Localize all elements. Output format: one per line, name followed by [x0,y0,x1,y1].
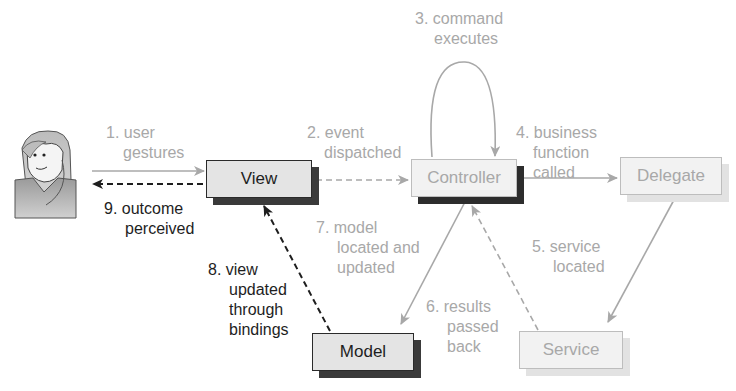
step-9-line: perceived [104,219,194,239]
step-4-line: function [516,143,597,163]
step-2-line: 2. event [307,123,401,143]
step-6-label: 6. results passed back [426,297,499,357]
step-5-line: 5. service [532,237,605,257]
step-7-line: updated [316,258,420,278]
step-4-line: called [516,163,597,183]
service-node[interactable]: Service [519,331,623,369]
arrow-delegate-to-service [608,198,675,322]
arrow-command-loop [431,62,495,157]
step-8-label: 8. view updated through bindings [208,260,289,340]
user-avatar-icon [15,131,76,218]
step-4-label: 4. business function called [516,123,597,183]
model-node-label: Model [340,342,386,362]
step-1-label: 1. user gestures [106,123,184,163]
step-7-line: 7. model [316,218,420,238]
step-8-line: bindings [208,320,289,340]
step-1-line: gestures [106,143,184,163]
step-2-line: dispatched [307,143,401,163]
step-3-line: 3. command [415,9,503,29]
step-9-line: 9. outcome [104,199,194,219]
step-6-line: back [426,337,499,357]
view-node[interactable]: View [206,160,312,198]
view-node-label: View [241,169,278,189]
step-6-line: passed [426,317,499,337]
controller-node-label: Controller [427,168,501,188]
step-4-line: 4. business [516,123,597,143]
controller-node[interactable]: Controller [411,159,517,197]
step-9-label: 9. outcome perceived [104,199,194,239]
step-5-label: 5. service located [532,237,605,277]
model-node[interactable]: Model [312,333,414,371]
step-2-label: 2. event dispatched [307,123,401,163]
step-8-line: 8. view [208,260,289,280]
step-7-line: located and [316,238,420,258]
service-node-label: Service [543,340,600,360]
step-7-label: 7. model located and updated [316,218,420,278]
step-5-line: located [532,257,605,277]
step-1-line: 1. user [106,123,184,143]
step-6-line: 6. results [426,297,499,317]
delegate-node-label: Delegate [637,166,705,186]
step-8-line: through [208,300,289,320]
step-3-line: executes [415,29,503,49]
delegate-node[interactable]: Delegate [620,157,722,195]
step-3-label: 3. command executes [415,9,503,49]
step-8-line: updated [208,280,289,300]
